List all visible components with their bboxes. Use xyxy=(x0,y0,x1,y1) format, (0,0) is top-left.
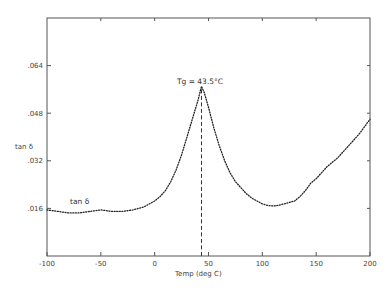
x-tick-label: 100 xyxy=(256,260,269,268)
tg-annotation: Tg = 43.5°C xyxy=(176,77,223,86)
tan-delta-curve xyxy=(47,86,370,212)
x-tick-label: 150 xyxy=(309,260,322,268)
x-axis-label: Temp (deg C) xyxy=(174,270,222,278)
x-tick-label: -50 xyxy=(95,260,106,268)
curve-label: tan δ xyxy=(70,197,90,206)
y-tick-label: .048 xyxy=(27,110,43,118)
x-tick-label: 200 xyxy=(363,260,376,268)
y-tick-label: .016 xyxy=(27,205,43,213)
x-tick-label: 50 xyxy=(204,260,213,268)
x-tick-label: -100 xyxy=(39,260,55,268)
tan-delta-chart: -100-50050100150200 .016.032.048.064 Tg … xyxy=(0,0,388,295)
y-tick-label: .032 xyxy=(27,157,43,165)
x-axis: -100-50050100150200 xyxy=(39,18,377,268)
x-tick-label: 0 xyxy=(152,260,156,268)
y-tick-label: .064 xyxy=(27,62,43,70)
plot-frame xyxy=(47,18,370,256)
y-axis-label: tan δ xyxy=(15,143,33,151)
